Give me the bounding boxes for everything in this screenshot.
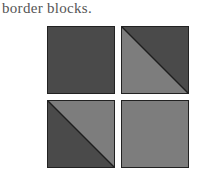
half-square-triangle-icon: [122, 27, 188, 93]
solid-dark-square-icon: [48, 27, 114, 93]
block-diagonal-light-upper-right: [47, 100, 115, 168]
block-solid-light: [121, 100, 189, 168]
caption-text: border blocks.: [2, 0, 92, 16]
solid-light-square-icon: [122, 101, 188, 167]
block-solid-dark: [47, 26, 115, 94]
half-square-triangle-icon: [48, 101, 114, 167]
block-diagonal-dark-upper-right: [121, 26, 189, 94]
